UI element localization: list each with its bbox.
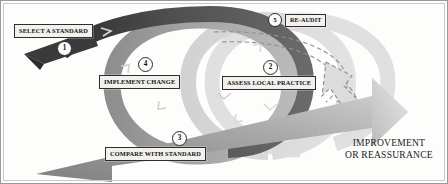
outcome-caption: IMPROVEMENT OR REASSURANCE [345,137,433,160]
stage-label-re-audit: RE-AUDIT [285,14,326,27]
chevron-arrowhead-icon [158,101,166,109]
stage-number-3: 3 [172,131,187,146]
stage-label-select-a-standard: SELECT A STANDARD [14,24,93,38]
figure-frame: SELECT A STANDARD IMPLEMENT CHANGE ASSES… [0,0,448,184]
outcome-line-1: IMPROVEMENT [345,137,433,149]
stage-number-2: 2 [263,60,278,75]
stage-number-4: 4 [138,57,153,72]
stage-label-implement-change: IMPLEMENT CHANGE [99,75,180,89]
stage-number-1: 1 [57,41,72,56]
chevron-arrowhead-icon [264,104,277,110]
stage-number-5: 5 [268,13,282,27]
stage-label-compare-with-standard: COMPARE WITH STANDARD [105,147,206,161]
outcome-line-2: OR REASSURANCE [345,149,433,161]
stage-label-assess-local-practice: ASSESS LOCAL PRACTICE [222,76,316,90]
chevron-arrowhead-icon [253,44,261,52]
